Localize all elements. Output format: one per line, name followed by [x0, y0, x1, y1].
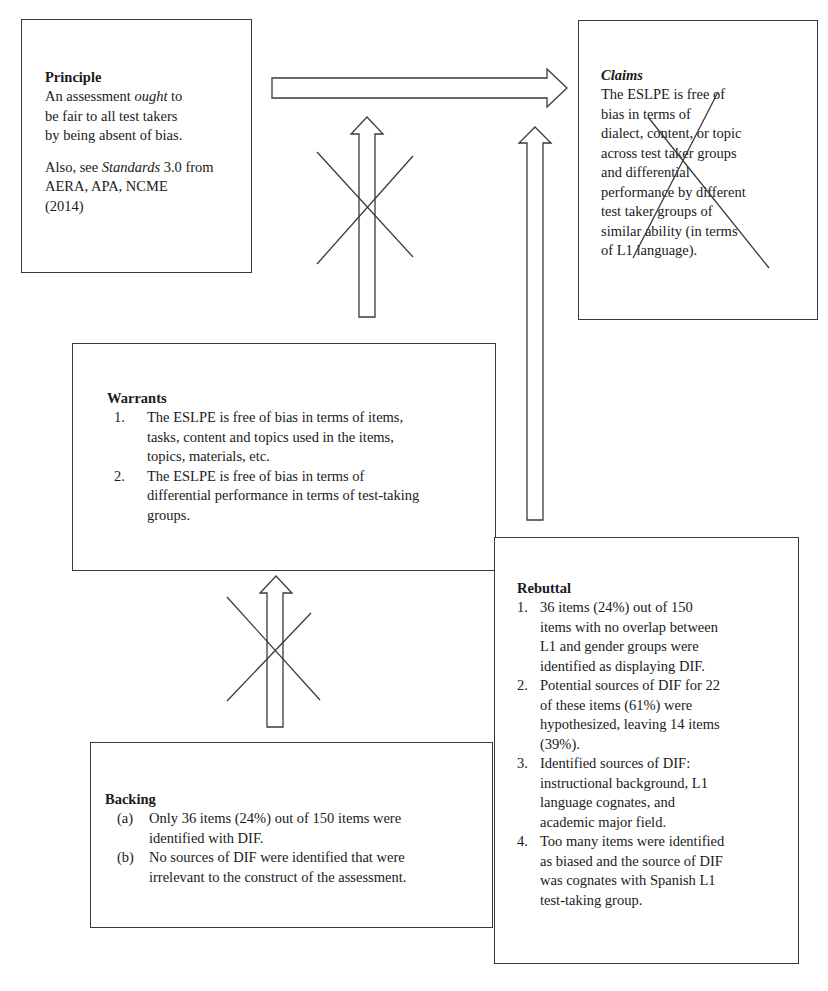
rebuttal-title: Rebuttal [517, 579, 795, 598]
principle-box: Principle An assessment ought to be fair… [21, 19, 252, 273]
principle-line-2: be fair to all test takers [45, 107, 255, 127]
backing-title: Backing [105, 790, 489, 809]
cross-out-claims-icon [578, 20, 818, 320]
principle-note-line-3: (2014) [45, 197, 255, 217]
warrant-item: 2. The ESLPE is free of bias in terms of… [107, 467, 487, 526]
warrants-list: 1. The ESLPE is free of bias in terms of… [107, 408, 487, 525]
cross-out-warrants-arrow-icon [317, 152, 413, 264]
backing-item: (a) Only 36 items (24%) out of 150 items… [105, 809, 489, 848]
principle-line-3: by being absent of bias. [45, 126, 255, 146]
rebuttal-box: Rebuttal 1. 36 items (24%) out of 150 it… [494, 537, 799, 964]
warrants-title: Warrants [107, 389, 487, 408]
principle-title: Principle [45, 68, 255, 87]
rebuttal-list: 1. 36 items (24%) out of 150 items with … [517, 598, 795, 910]
rebuttal-item: 2. Potential sources of DIF for 22 of th… [517, 676, 795, 754]
arrow-principle-to-claims [272, 69, 567, 107]
arrow-rebuttal-to-claims [519, 127, 551, 520]
warrant-item: 1. The ESLPE is free of bias in terms of… [107, 408, 487, 467]
principle-note-line-1: Also, see Standards 3.0 from [45, 158, 255, 178]
rebuttal-item: 4. Too many items were identified as bia… [517, 832, 795, 910]
principle-line-1: An assessment ought to [45, 87, 255, 107]
arrow-warrants-up [351, 117, 383, 317]
cross-out-backing-arrow-icon [227, 597, 320, 701]
rebuttal-item: 1. 36 items (24%) out of 150 items with … [517, 598, 795, 676]
warrants-box: Warrants 1. The ESLPE is free of bias in… [72, 343, 496, 571]
claims-box: Claims The ESLPE is free of bias in term… [578, 20, 818, 320]
backing-list: (a) Only 36 items (24%) out of 150 items… [105, 809, 489, 887]
principle-note-line-2: AERA, APA, NCME [45, 177, 255, 197]
backing-item: (b) No sources of DIF were identified th… [105, 848, 489, 887]
arrow-backing-to-warrants [260, 576, 292, 727]
rebuttal-item: 3. Identified sources of DIF: instructio… [517, 754, 795, 832]
backing-box: Backing (a) Only 36 items (24%) out of 1… [90, 742, 493, 928]
